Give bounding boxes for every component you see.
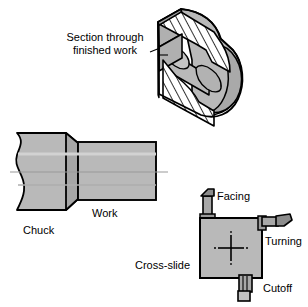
work-label: Work bbox=[92, 207, 117, 220]
section-label-line2: finished work bbox=[73, 44, 137, 56]
workpiece-body bbox=[78, 142, 156, 200]
facing-tool bbox=[200, 189, 215, 220]
cutoff-tool-tip bbox=[238, 291, 250, 301]
section-label-line1: Section through bbox=[66, 31, 143, 43]
facing-label: Facing bbox=[217, 190, 250, 203]
chuck-label: Chuck bbox=[23, 224, 54, 237]
cross-slide-label: Cross-slide bbox=[135, 259, 190, 272]
turning-tool bbox=[258, 214, 292, 230]
cutoff-label: Cutoff bbox=[263, 282, 292, 295]
chuck-and-work-drawing bbox=[10, 133, 168, 210]
facing-tool-tip bbox=[201, 189, 214, 196]
turning-tool-tip bbox=[276, 214, 292, 226]
turning-label: Turning bbox=[265, 235, 302, 248]
cutoff-tool bbox=[238, 275, 252, 301]
cutoff-tool-blade bbox=[239, 275, 252, 292]
section-through-finished-work-drawing bbox=[150, 9, 242, 126]
section-label: Section through finished work bbox=[56, 31, 154, 56]
